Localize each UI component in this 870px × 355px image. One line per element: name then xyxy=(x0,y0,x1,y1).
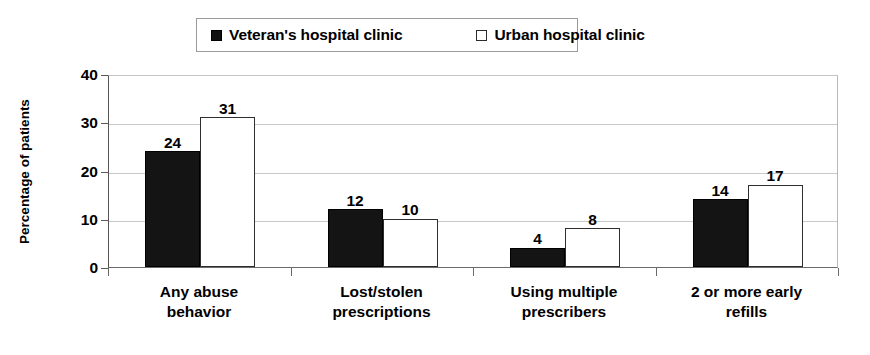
x-category-line-2: refills xyxy=(656,302,838,322)
bar-group-any-abuse-behavior: 24 31 xyxy=(109,76,292,267)
x-category-line-1: Any abuse xyxy=(108,282,290,302)
bar-group-using-multiple-prescribers: 4 8 xyxy=(474,76,657,267)
legend-entry-urban: Urban hospital clinic xyxy=(476,26,644,44)
x-category-label-2-or-more-early-refills: 2 or more early refills xyxy=(656,282,838,322)
bar-value-urban-2-or-more-early-refills: 17 xyxy=(766,168,783,184)
y-tick-label-10: 10 xyxy=(64,212,98,228)
y-tick-label-40: 40 xyxy=(64,67,98,83)
chart-legend: Veteran's hospital clinic Urban hospital… xyxy=(196,18,578,52)
x-category-label-lost-stolen-prescriptions: Lost/stolen prescriptions xyxy=(291,282,473,322)
legend-label-urban: Urban hospital clinic xyxy=(494,26,644,44)
bar-group-2-or-more-early-refills: 14 17 xyxy=(657,76,840,267)
bar-urban-any-abuse-behavior[interactable]: 31 xyxy=(200,117,255,267)
bar-value-urban-using-multiple-prescribers: 8 xyxy=(588,212,597,228)
y-tick-mark-20 xyxy=(101,172,108,173)
x-category-line-1: Lost/stolen xyxy=(291,282,473,302)
bar-veterans-2-or-more-early-refills[interactable]: 14 xyxy=(693,199,748,267)
x-tick-mark-0 xyxy=(108,268,109,276)
bar-veterans-lost-stolen-prescriptions[interactable]: 12 xyxy=(328,209,383,267)
bar-chart: Veteran's hospital clinic Urban hospital… xyxy=(0,0,870,355)
bar-value-urban-lost-stolen-prescriptions: 10 xyxy=(401,202,418,218)
bar-urban-2-or-more-early-refills[interactable]: 17 xyxy=(748,185,803,267)
bar-value-urban-any-abuse-behavior: 31 xyxy=(219,101,236,117)
y-tick-label-30: 30 xyxy=(64,116,98,132)
y-tick-mark-30 xyxy=(101,123,108,124)
x-tick-mark-2 xyxy=(473,268,474,276)
plot-area: 24 31 12 10 4 8 14 xyxy=(108,75,838,268)
x-category-line-2: prescriptions xyxy=(291,302,473,322)
y-tick-mark-40 xyxy=(101,75,108,76)
bar-veterans-using-multiple-prescribers[interactable]: 4 xyxy=(510,248,565,267)
bar-urban-lost-stolen-prescriptions[interactable]: 10 xyxy=(383,219,438,267)
y-tick-mark-0 xyxy=(101,268,108,269)
x-category-label-any-abuse-behavior: Any abuse behavior xyxy=(108,282,290,322)
x-category-line-1: 2 or more early xyxy=(656,282,838,302)
y-tick-label-0: 0 xyxy=(64,260,98,276)
legend-entry-veterans: Veteran's hospital clinic xyxy=(211,26,402,44)
y-tick-mark-10 xyxy=(101,220,108,221)
bar-veterans-any-abuse-behavior[interactable]: 24 xyxy=(145,151,200,267)
y-axis-title: Percentage of patients xyxy=(16,75,34,268)
x-category-label-using-multiple-prescribers: Using multiple prescribers xyxy=(473,282,655,322)
legend-swatch-filled-icon xyxy=(211,30,222,41)
x-tick-mark-3 xyxy=(656,268,657,276)
bar-value-veterans-any-abuse-behavior: 24 xyxy=(164,135,181,151)
x-category-line-1: Using multiple xyxy=(473,282,655,302)
bar-value-veterans-2-or-more-early-refills: 14 xyxy=(711,183,728,199)
legend-label-veterans: Veteran's hospital clinic xyxy=(229,26,402,44)
bar-value-veterans-lost-stolen-prescriptions: 12 xyxy=(346,193,363,209)
bar-urban-using-multiple-prescribers[interactable]: 8 xyxy=(565,228,620,267)
x-tick-mark-4 xyxy=(838,268,839,276)
bar-value-veterans-using-multiple-prescribers: 4 xyxy=(533,231,542,247)
x-category-line-2: prescribers xyxy=(473,302,655,322)
y-tick-label-20: 20 xyxy=(64,164,98,180)
x-category-line-2: behavior xyxy=(108,302,290,322)
bar-group-lost-stolen-prescriptions: 12 10 xyxy=(292,76,475,267)
legend-swatch-hollow-icon xyxy=(476,30,487,41)
x-tick-mark-1 xyxy=(291,268,292,276)
